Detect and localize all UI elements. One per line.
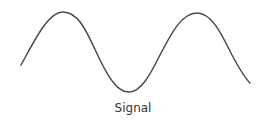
signal-label: Signal xyxy=(0,101,266,115)
sine-wave xyxy=(21,12,250,92)
